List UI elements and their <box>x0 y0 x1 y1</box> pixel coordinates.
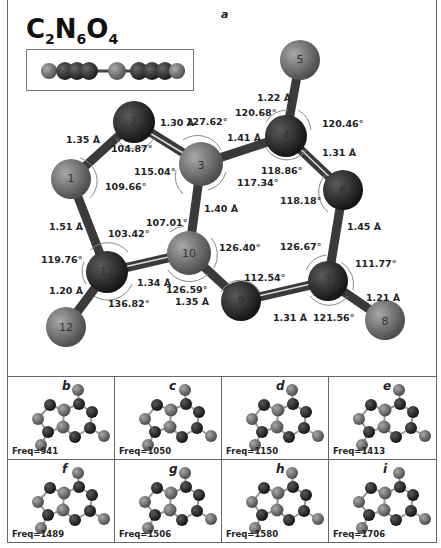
svg-text:1: 1 <box>68 172 75 185</box>
mode-panel-h: h Freq=1580 <box>222 460 329 543</box>
mode-letter: f <box>62 462 67 476</box>
mode-panel-f: f Freq=1489 <box>8 460 115 543</box>
svg-text:1.51 Å: 1.51 Å <box>49 221 84 232</box>
svg-text:5: 5 <box>297 53 304 66</box>
svg-text:4: 4 <box>283 129 290 142</box>
svg-text:1.21 Å: 1.21 Å <box>366 292 401 303</box>
svg-text:12: 12 <box>59 321 73 334</box>
svg-text:104.87°: 104.87° <box>111 143 152 154</box>
svg-text:136.82°: 136.82° <box>108 298 149 309</box>
svg-text:6: 6 <box>340 184 347 197</box>
svg-text:120.68°: 120.68° <box>235 107 276 118</box>
mode-frequency: Freq=1150 <box>226 446 278 456</box>
svg-text:1.31 Å: 1.31 Å <box>322 147 357 158</box>
mode-panel-i: i Freq=1706 <box>329 460 436 543</box>
svg-text:120.46°: 120.46° <box>322 118 363 129</box>
svg-text:7: 7 <box>325 274 332 287</box>
mode-frequency: Freq=1489 <box>12 529 64 539</box>
mode-frequency: Freq=1050 <box>119 446 171 456</box>
svg-text:9: 9 <box>238 294 245 307</box>
molecule-diagram: 1 2 3 4 5 6 7 8 9 10 11 12 1.35 Å 1.30 Å… <box>8 0 438 377</box>
svg-text:1.31 Å: 1.31 Å <box>273 312 308 323</box>
mode-letter: c <box>169 379 176 393</box>
svg-text:107.01°: 107.01° <box>146 217 187 228</box>
svg-text:112.54°: 112.54° <box>244 272 285 283</box>
mode-letter: h <box>276 462 285 476</box>
mode-panel-b: b Freq=941 <box>8 377 115 460</box>
svg-text:117.34°: 117.34° <box>237 177 278 188</box>
svg-text:109.66°: 109.66° <box>105 181 146 192</box>
svg-text:1.40 Å: 1.40 Å <box>204 203 239 214</box>
svg-text:1.35 Å: 1.35 Å <box>66 134 101 145</box>
svg-text:2: 2 <box>131 115 138 128</box>
mode-frequency: Freq=1706 <box>333 529 385 539</box>
main-structure-panel: C2N6O4 a <box>7 0 437 377</box>
mode-panel-g: g Freq=1506 <box>115 460 222 543</box>
svg-text:1.20 Å: 1.20 Å <box>49 285 84 296</box>
svg-text:118.18°: 118.18° <box>280 195 321 206</box>
svg-text:127.62°: 127.62° <box>186 116 227 127</box>
mode-frequency: Freq=1413 <box>333 446 385 456</box>
svg-text:8: 8 <box>382 315 389 328</box>
mode-letter: d <box>276 379 285 393</box>
svg-text:126.40°: 126.40° <box>219 242 260 253</box>
mode-letter: i <box>383 462 387 476</box>
svg-text:126.59°: 126.59° <box>166 284 207 295</box>
mode-frequency: Freq=1506 <box>119 529 171 539</box>
svg-text:119.76°: 119.76° <box>41 254 82 265</box>
mode-frequency: Freq=941 <box>12 446 58 456</box>
mode-letter: b <box>62 379 71 393</box>
svg-text:111.77°: 111.77° <box>355 258 396 269</box>
mode-letter: e <box>383 379 391 393</box>
svg-text:11: 11 <box>100 265 114 278</box>
svg-text:3: 3 <box>198 159 205 172</box>
svg-text:121.56°: 121.56° <box>313 312 354 323</box>
svg-text:1.41 Å: 1.41 Å <box>227 132 262 143</box>
svg-text:118.86°: 118.86° <box>261 165 302 176</box>
svg-text:1.45 Å: 1.45 Å <box>347 221 382 232</box>
mode-letter: g <box>169 462 178 476</box>
mode-frequency: Freq=1580 <box>226 529 278 539</box>
mode-panel-d: d Freq=1150 <box>222 377 329 460</box>
svg-text:10: 10 <box>182 247 196 260</box>
svg-text:1.22 Å: 1.22 Å <box>257 92 292 103</box>
mode-panel-c: c Freq=1050 <box>115 377 222 460</box>
svg-text:126.67°: 126.67° <box>280 241 321 252</box>
vibration-modes-grid: b Freq=941 c Freq=1050 d Freq=1150 e Fre… <box>7 377 437 543</box>
svg-text:115.04°: 115.04° <box>134 166 175 177</box>
svg-text:103.42°: 103.42° <box>108 228 149 239</box>
mode-panel-e: e Freq=1413 <box>329 377 436 460</box>
svg-text:1.35 Å: 1.35 Å <box>175 296 210 307</box>
